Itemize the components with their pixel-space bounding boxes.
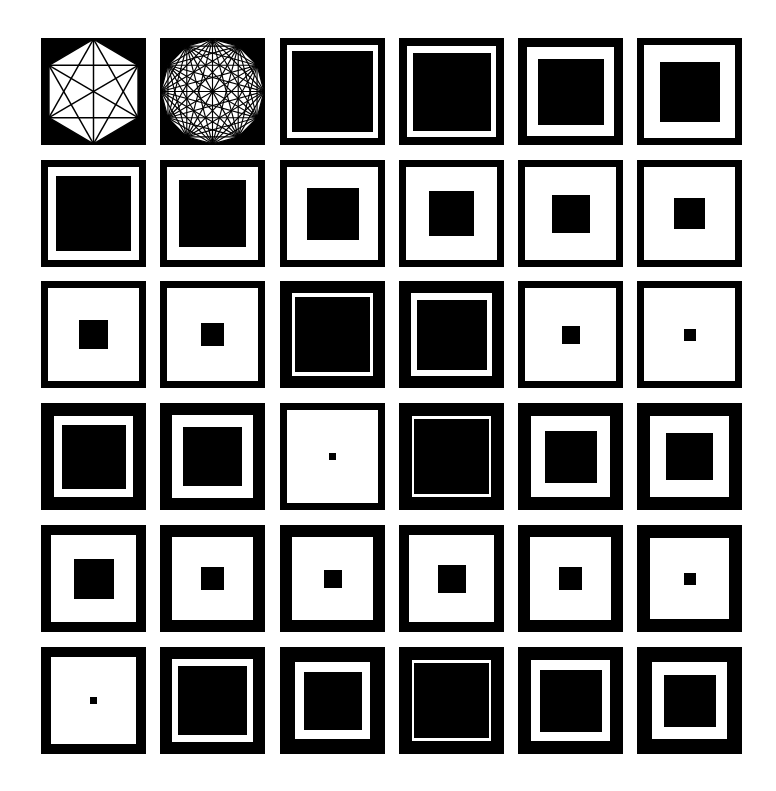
inner-square bbox=[414, 419, 489, 494]
nested-square-cell bbox=[518, 160, 623, 267]
nested-square-cell bbox=[41, 525, 146, 632]
inner-square bbox=[414, 663, 489, 738]
nested-square-cell bbox=[41, 403, 146, 510]
inner-square bbox=[674, 198, 705, 229]
nested-square-cell bbox=[518, 281, 623, 388]
inner-square bbox=[666, 433, 713, 480]
inner-square bbox=[538, 59, 604, 125]
dodecagon-with-diagonals-cell bbox=[160, 38, 265, 145]
inner-square bbox=[74, 559, 114, 599]
inner-square bbox=[307, 188, 359, 240]
nested-square-cell bbox=[160, 160, 265, 267]
inner-square bbox=[417, 300, 487, 370]
nested-square-cell bbox=[160, 281, 265, 388]
inner-square bbox=[201, 323, 224, 346]
hexagon-with-diagonals-icon bbox=[41, 38, 146, 145]
inner-square bbox=[413, 53, 491, 131]
nested-square-cell bbox=[637, 160, 742, 267]
inner-square bbox=[79, 320, 108, 349]
nested-square-cell bbox=[399, 281, 504, 388]
nested-square-cell bbox=[518, 525, 623, 632]
nested-square-cell bbox=[280, 647, 385, 754]
inner-square bbox=[438, 565, 466, 593]
nested-square-cell bbox=[518, 403, 623, 510]
inner-square bbox=[90, 697, 97, 704]
inner-square bbox=[201, 567, 224, 590]
inner-square bbox=[324, 570, 342, 588]
inner-square bbox=[62, 425, 126, 489]
inner-square bbox=[429, 191, 474, 236]
inner-square bbox=[545, 431, 597, 483]
nested-square-cell bbox=[518, 647, 623, 754]
hexagon-with-diagonals-cell bbox=[41, 38, 146, 145]
nested-square-cell bbox=[280, 403, 385, 510]
nested-square-cell bbox=[637, 403, 742, 510]
nested-square-cell bbox=[280, 525, 385, 632]
inner-square bbox=[183, 427, 242, 486]
nested-square-cell bbox=[160, 525, 265, 632]
nested-square-cell bbox=[160, 647, 265, 754]
inner-square bbox=[684, 573, 696, 585]
nested-square-cell bbox=[280, 160, 385, 267]
nested-square-cell bbox=[41, 281, 146, 388]
inner-square bbox=[292, 51, 373, 132]
inner-square bbox=[664, 675, 716, 727]
nested-square-cell bbox=[41, 160, 146, 267]
nested-square-cell bbox=[399, 403, 504, 510]
nested-square-cell bbox=[41, 647, 146, 754]
nested-square-cell bbox=[280, 38, 385, 145]
inner-square bbox=[56, 176, 131, 251]
inner-square bbox=[660, 62, 720, 122]
inner-square bbox=[178, 666, 247, 735]
nested-square-cell bbox=[637, 647, 742, 754]
inner-square bbox=[179, 180, 246, 247]
nested-square-cell bbox=[160, 403, 265, 510]
nested-square-cell bbox=[518, 38, 623, 145]
nested-square-cell bbox=[399, 38, 504, 145]
inner-square bbox=[295, 297, 370, 372]
inner-square bbox=[559, 567, 582, 590]
nested-square-cell bbox=[399, 647, 504, 754]
inner-square bbox=[552, 195, 590, 233]
inner-square bbox=[684, 329, 696, 341]
inner-square bbox=[562, 326, 580, 344]
nested-square-cell bbox=[637, 38, 742, 145]
inner-square bbox=[304, 672, 362, 730]
inner-square bbox=[329, 453, 336, 460]
nested-square-cell bbox=[399, 160, 504, 267]
dodecagon-with-diagonals-icon bbox=[160, 38, 265, 145]
nested-square-cell bbox=[637, 525, 742, 632]
nested-square-cell bbox=[280, 281, 385, 388]
inner-square bbox=[540, 670, 602, 732]
pattern-grid bbox=[0, 0, 776, 791]
nested-square-cell bbox=[637, 281, 742, 388]
nested-square-cell bbox=[399, 525, 504, 632]
